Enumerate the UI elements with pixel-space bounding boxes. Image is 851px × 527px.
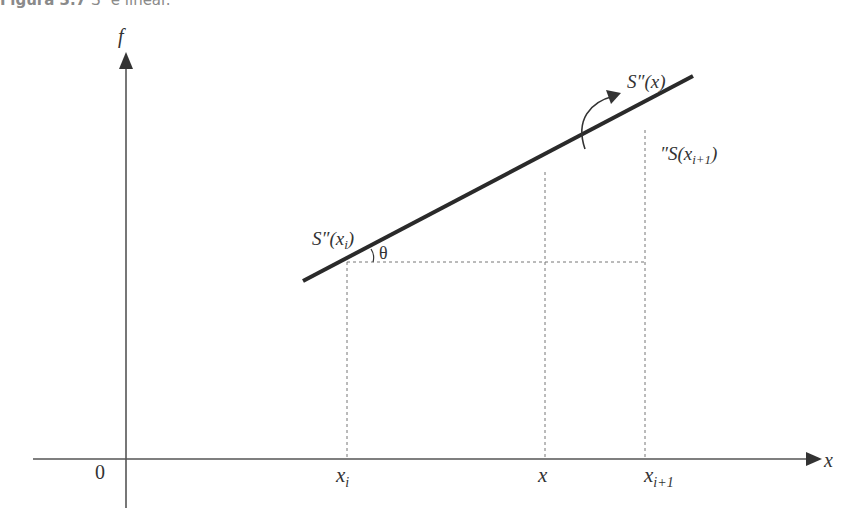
x-axis-arrow-icon	[806, 452, 822, 466]
label-s-xi: S″(xi)	[312, 228, 354, 252]
y-axis-arrow-icon	[119, 52, 133, 69]
linear-spline-diagram: f x 0 xi x xi+1 S″(x) S″(xi) ″S(xi+1) θ	[0, 0, 851, 527]
tick-x: x	[537, 463, 548, 487]
label-s-x: S″(x)	[627, 71, 666, 93]
theta-arc	[371, 249, 374, 262]
tick-xi: xi	[335, 463, 349, 490]
theta-label: θ	[379, 243, 388, 263]
y-axis-label: f	[118, 25, 126, 48]
label-s-xi1: ″S(xi+1)	[660, 143, 717, 167]
curved-pointer-arrow-icon	[582, 96, 614, 149]
origin-label: 0	[95, 461, 105, 483]
x-axis-label: x	[823, 449, 833, 471]
x-axis	[33, 452, 822, 466]
tick-xi1: xi+1	[643, 463, 674, 490]
linear-segment	[303, 76, 693, 281]
y-axis	[119, 52, 133, 508]
